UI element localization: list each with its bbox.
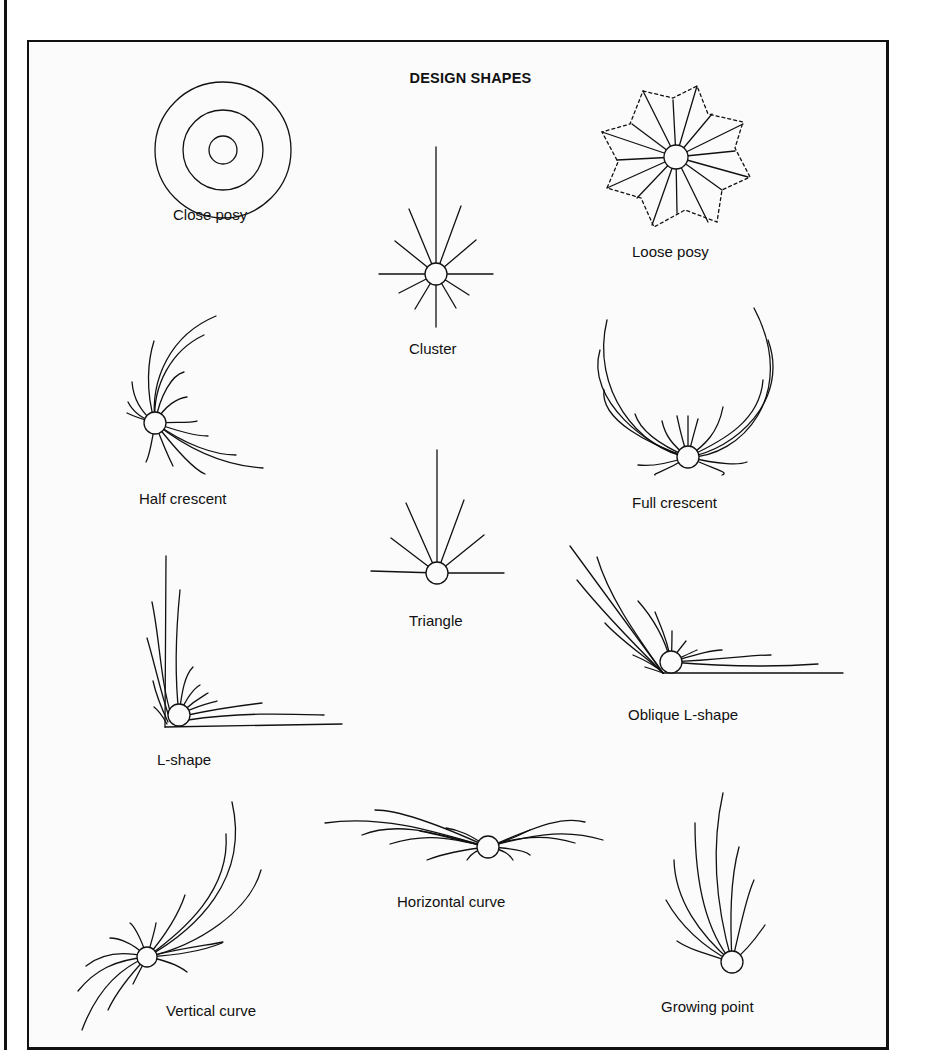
half-crescent-label: Half crescent [139,490,227,507]
triangle-icon [371,450,504,584]
triangle-label: Triangle [409,612,463,629]
oblique-l-shape-icon [570,546,843,673]
horizontal-curve-icon [325,810,603,860]
loose-posy-icon [602,86,750,227]
close-posy-icon [155,82,291,218]
close-posy-label: Close posy [173,206,247,223]
full-crescent-icon [598,308,773,475]
l-shape-icon [147,556,342,727]
full-crescent-label: Full crescent [632,494,717,511]
growing-point-icon [666,793,765,973]
oblique-l-shape-label: Oblique L-shape [628,706,738,723]
vertical-curve-icon [78,802,261,1030]
loose-posy-label: Loose posy [632,243,709,260]
horizontal-curve-label: Horizontal curve [397,893,505,910]
cluster-label: Cluster [409,340,457,357]
half-crescent-icon [127,316,263,474]
l-shape-label: L-shape [157,751,211,768]
vertical-curve-label: Vertical curve [166,1002,256,1019]
cluster-icon [379,147,493,327]
growing-point-label: Growing point [661,998,754,1015]
